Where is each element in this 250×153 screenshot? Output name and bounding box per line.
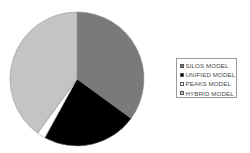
legend-label-hybrid: HYBRID MODEL xyxy=(186,90,234,97)
chart-legend: SILOS MODEL UNIFIED MODEL PEAKS MODEL HY… xyxy=(176,58,237,98)
legend-swatch-silos xyxy=(180,64,184,68)
legend-swatch-hybrid xyxy=(180,91,184,95)
legend-item-silos: SILOS MODEL xyxy=(180,61,236,70)
legend-item-unified: UNIFIED MODEL xyxy=(180,70,236,79)
legend-label-unified: UNIFIED MODEL xyxy=(186,71,236,78)
legend-label-peaks: PEAKS MODEL xyxy=(186,80,231,87)
legend-item-peaks: PEAKS MODEL xyxy=(180,79,236,88)
legend-item-hybrid: HYBRID MODEL xyxy=(180,89,236,98)
legend-swatch-unified xyxy=(180,73,184,77)
legend-label-silos: SILOS MODEL xyxy=(186,62,229,69)
legend-swatch-peaks xyxy=(180,82,184,86)
